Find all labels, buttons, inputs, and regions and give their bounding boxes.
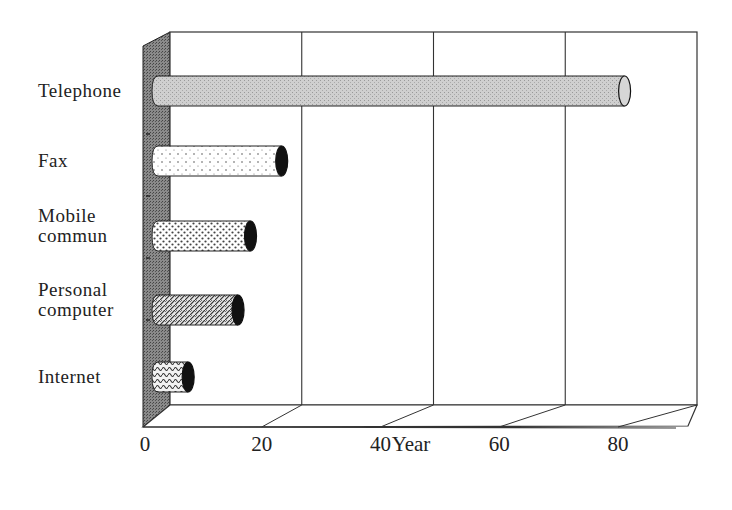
bar-mobile-commun (152, 221, 257, 251)
x-axis-title: Year (392, 432, 431, 457)
category-label: Fax (38, 151, 68, 171)
bar-personal-computer (152, 295, 244, 325)
bar-cap (245, 221, 257, 251)
category-label: Mobilecommun (38, 206, 108, 246)
x-tick-label: 0 (140, 432, 151, 457)
category-label: Internet (38, 367, 101, 387)
bar-fax (152, 146, 288, 176)
bar-telephone (152, 76, 631, 106)
bar-cap (232, 295, 244, 325)
bar-cap (619, 76, 631, 106)
x-tick-label: 80 (608, 432, 629, 457)
category-label: Telephone (38, 81, 121, 101)
bar-cap (276, 146, 288, 176)
x-tick-label: 40 (370, 432, 391, 457)
bar-cap (182, 362, 194, 392)
floor (143, 405, 697, 427)
bar-internet (152, 362, 194, 392)
category-label: Personalcomputer (38, 280, 114, 320)
x-tick-label: 60 (489, 432, 510, 457)
x-tick-label: 20 (251, 432, 272, 457)
